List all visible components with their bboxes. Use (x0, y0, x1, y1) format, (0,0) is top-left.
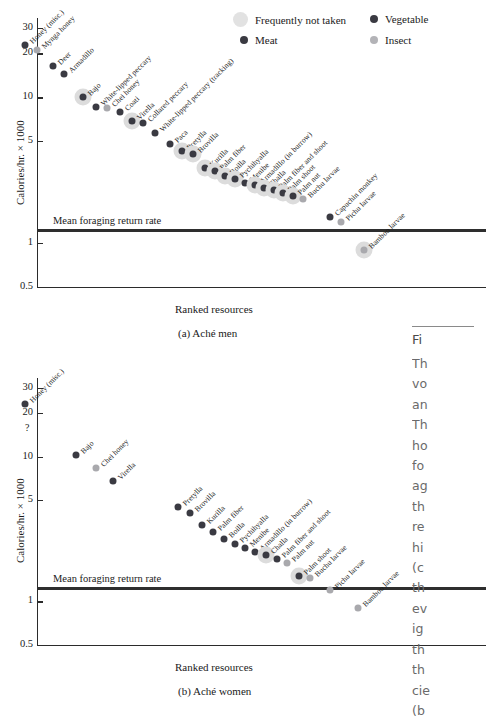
data-point (284, 559, 291, 566)
y-axis-tick-label: 10 (5, 451, 33, 462)
caption-line: re (412, 517, 486, 537)
y-axis-tick-label: 10 (5, 91, 33, 102)
data-point (242, 544, 249, 551)
data-point (307, 575, 314, 582)
y-axis-tick-label: 20 (5, 407, 33, 418)
y-axis-line (37, 378, 38, 645)
data-point (210, 529, 217, 536)
y-axis-label: Calories/hr. × 1000 (14, 478, 26, 563)
y-axis-question-mark: ? (25, 422, 29, 433)
data-point (80, 94, 87, 101)
data-point (22, 41, 29, 48)
figure-root: Frequently not taken Vegetable Meat Inse… (0, 0, 486, 721)
data-point (117, 109, 124, 116)
caption-line: fo (412, 456, 486, 476)
y-axis-tick-label: 30 (5, 22, 33, 33)
data-point (152, 129, 159, 136)
x-axis-line (37, 287, 486, 288)
y-axis-tick (37, 97, 43, 98)
caption-line: hi (412, 538, 486, 558)
data-point (263, 551, 270, 558)
data-point (93, 103, 100, 110)
caption-line: Th (412, 415, 486, 435)
data-point (22, 401, 29, 408)
caption-line: (b (412, 701, 486, 721)
figure-caption-number: Fi (412, 332, 422, 347)
data-point (50, 62, 57, 69)
caption-line: ag (412, 476, 486, 496)
data-point (232, 176, 239, 183)
caption-line: an (412, 395, 486, 415)
y-axis-tick (37, 413, 43, 414)
x-axis-label: Ranked resources (175, 661, 253, 673)
caption-line: th (412, 578, 486, 598)
data-point (327, 586, 334, 593)
y-axis-tick-label: 1 (5, 595, 33, 606)
y-axis-tick-label: 20 (5, 47, 33, 58)
chart-panel-ache-women: 0.515102030?Mean foraging return rateHon… (0, 358, 410, 721)
y-axis-tick (37, 457, 43, 458)
y-axis-tick (37, 243, 43, 244)
data-point (93, 464, 100, 471)
data-point (61, 70, 68, 77)
data-point (361, 246, 368, 253)
caption-line: cie (412, 681, 486, 701)
data-point (104, 104, 111, 111)
figure-caption-column: Fi ThvoanThhofoagthrehi(cthevigththcie(b… (412, 320, 486, 721)
caption-line: th (412, 497, 486, 517)
y-axis-tick (37, 141, 43, 142)
data-point (232, 540, 239, 547)
data-point (129, 117, 136, 124)
data-point-label: Virella (116, 460, 137, 481)
mean-foraging-return-label: Mean foraging return rate (53, 215, 161, 226)
data-point (274, 556, 281, 563)
data-point-label: Armadillo (67, 45, 96, 74)
y-axis-line (37, 18, 38, 287)
mean-foraging-return-line (37, 229, 486, 232)
data-point (296, 572, 303, 579)
data-point (300, 196, 307, 203)
y-axis-tick-label: 30 (5, 382, 33, 393)
caption-line: ev (412, 599, 486, 619)
data-point-label: Honey (misc.) (28, 367, 66, 405)
data-point (290, 193, 297, 200)
y-axis-tick-label: 1 (5, 237, 33, 248)
y-axis-label: Calories/hr. × 1000 (14, 120, 26, 205)
figure-caption-body: ThvoanThhofoagthrehi(cthevigththcie(bhow… (412, 354, 486, 721)
caption-line: Th (412, 354, 486, 374)
caption-divider (412, 326, 474, 327)
data-point (221, 536, 228, 543)
data-point (199, 521, 206, 528)
data-point-label: White-lipped peccary (99, 53, 153, 107)
data-point-label: Pichu larvae (333, 557, 367, 591)
caption-line: th (412, 640, 486, 660)
data-point (167, 140, 174, 147)
data-point (110, 477, 117, 484)
panel-caption-b: (b) Aché women (178, 685, 251, 697)
y-axis-tick-label: 0.5 (5, 281, 33, 292)
caption-line: (c (412, 558, 486, 578)
data-point (73, 452, 80, 459)
caption-line: vo (412, 374, 486, 394)
caption-line: ig (412, 619, 486, 639)
chart-panel-ache-men: 0.515102030Mean foraging return rateHone… (0, 0, 410, 360)
data-point (34, 47, 41, 54)
data-point (187, 509, 194, 516)
y-axis-tick (37, 500, 43, 501)
data-point (327, 214, 334, 221)
data-point (355, 605, 362, 612)
panel-caption-a: (a) Aché men (178, 327, 237, 339)
data-point (140, 119, 147, 126)
caption-line: ho (412, 436, 486, 456)
caption-line: th (412, 660, 486, 680)
y-axis-tick-label: 0.5 (5, 639, 33, 650)
y-axis-tick (37, 287, 43, 288)
y-axis-tick (37, 645, 43, 646)
x-axis-label: Ranked resources (175, 303, 253, 315)
data-point (338, 218, 345, 225)
mean-foraging-return-label: Mean foraging return rate (53, 573, 161, 584)
data-point (175, 503, 182, 510)
y-axis-tick (37, 601, 43, 602)
data-point-label: Bajo (79, 439, 96, 456)
data-point (190, 150, 197, 157)
